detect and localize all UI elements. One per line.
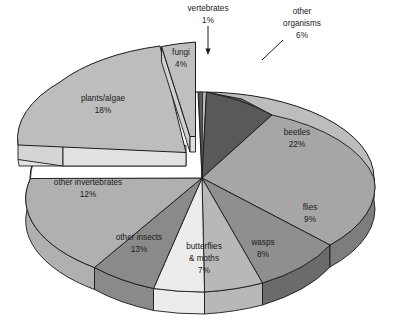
label-fungi: fungi: [172, 48, 190, 57]
label-butterflies-and-moths-line1: butterflies: [186, 242, 222, 251]
value-other-organisms: 6%: [296, 31, 308, 40]
label-other-invertebrates: other invertebrates: [54, 178, 122, 187]
vertebrates-leader-arrow: [205, 49, 210, 56]
pie-chart: beetles 22% flies 9% wasps 8% butterflie…: [0, 0, 394, 335]
label-other-insects: other insects: [116, 233, 162, 242]
value-beetles: 22%: [289, 140, 305, 149]
value-vertebrates: 1%: [202, 16, 214, 25]
label-plants-algae: plants/algae: [81, 94, 126, 103]
label-butterflies-and-moths-line2: & moths: [189, 254, 219, 263]
side-wall-fungi-front: [190, 137, 196, 153]
value-other-insects: 13%: [131, 245, 147, 254]
pie-chart-svg: beetles 22% flies 9% wasps 8% butterflie…: [0, 0, 394, 335]
label-other-organisms-line1: other: [293, 7, 312, 16]
value-flies: 9%: [304, 215, 316, 224]
value-wasps: 8%: [257, 250, 269, 259]
value-plants-algae: 18%: [95, 106, 111, 115]
leader-lines: [205, 26, 283, 60]
label-wasps: wasps: [250, 238, 274, 247]
value-other-invertebrates: 12%: [80, 190, 96, 199]
label-vertebrates: vertebrates: [188, 4, 229, 13]
label-beetles: beetles: [284, 128, 310, 137]
other-organisms-leader-line: [262, 40, 283, 60]
value-butterflies-and-moths: 7%: [198, 266, 210, 275]
value-fungi: 4%: [175, 60, 187, 69]
label-flies: flies: [303, 203, 318, 212]
label-other-organisms-line2: organisms: [283, 19, 321, 28]
